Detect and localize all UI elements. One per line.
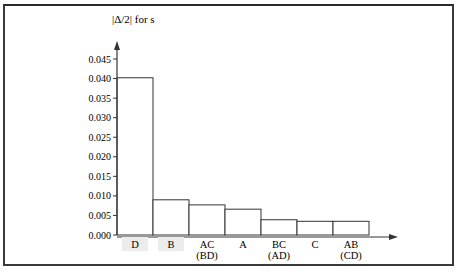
x-category-label: AC [200, 239, 215, 250]
bar-bc [261, 220, 297, 235]
x-category-alias: (AD) [268, 250, 291, 262]
y-tick-label: 0.045 [89, 54, 112, 65]
chart-title: |Δ/2| for s [112, 13, 155, 25]
x-category-alias: (BD) [196, 250, 218, 262]
y-tick-label: 0.005 [89, 210, 112, 221]
bar-c [297, 221, 333, 235]
pareto-bar-chart: 0.0000.0050.0100.0150.0200.0250.0300.035… [0, 0, 460, 272]
bar-ab [333, 221, 369, 235]
bars-group [117, 78, 369, 235]
y-tick-label: 0.035 [89, 93, 112, 104]
y-tick-label: 0.025 [89, 132, 112, 143]
x-category-label: BC [272, 239, 286, 250]
y-tick-label: 0.030 [89, 112, 112, 123]
labels-group: DBAC(BD)ABC(AD)CAB(CD) [122, 237, 362, 262]
y-tick-label: 0.020 [89, 151, 112, 162]
y-axis-arrow-icon [114, 41, 120, 50]
y-tick-label: 0.010 [89, 190, 112, 201]
y-tick-label: 0.040 [89, 73, 112, 84]
x-category-alias: (CD) [340, 250, 362, 262]
bar-ac [189, 205, 225, 235]
x-category-label: D [131, 239, 139, 250]
bar-a [225, 209, 261, 235]
x-category-label: C [311, 239, 318, 250]
bar-b [153, 200, 189, 235]
y-tick-label: 0.015 [89, 171, 112, 182]
bar-d [117, 78, 153, 235]
x-axis-arrow-icon [389, 234, 398, 240]
x-category-label: A [239, 239, 247, 250]
x-category-label: AB [344, 239, 359, 250]
y-tick-label: 0.000 [89, 230, 112, 241]
x-category-label: B [167, 239, 174, 250]
